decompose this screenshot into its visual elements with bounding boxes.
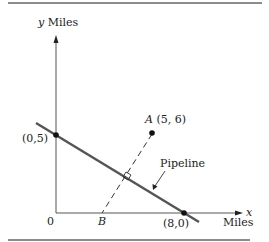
perpendicular-dashed-line bbox=[102, 134, 152, 213]
y-axis-var: y bbox=[37, 16, 45, 29]
pipeline-label: Pipeline bbox=[160, 157, 205, 170]
y-axis-unit: Miles bbox=[48, 16, 79, 29]
pipeline-line bbox=[36, 123, 199, 222]
point-a-name: A bbox=[144, 113, 153, 126]
x-axis-unit: Miles bbox=[223, 216, 254, 229]
y-axis-arrow-icon bbox=[54, 35, 59, 43]
point-a bbox=[149, 130, 155, 136]
pipeline-diagram: y Miles x Miles 0 (0,5) (8,0) A (5, 6) B… bbox=[0, 0, 269, 242]
pipeline-leader-line bbox=[155, 171, 165, 186]
point-a-coords: (5, 6) bbox=[156, 113, 186, 126]
x-axis-arrow-icon bbox=[235, 211, 243, 216]
point-b-label: B bbox=[97, 215, 106, 228]
svg-text:A (5, 6): A (5, 6) bbox=[144, 113, 186, 126]
svg-text:y Miles: y Miles bbox=[37, 16, 79, 29]
point-y-intercept bbox=[53, 132, 59, 138]
x-intercept-label: (8,0) bbox=[163, 217, 189, 230]
origin-label: 0 bbox=[47, 215, 54, 228]
point-x-intercept bbox=[181, 210, 187, 216]
pipeline-leader-arrow-icon bbox=[153, 184, 158, 190]
y-intercept-label: (0,5) bbox=[22, 132, 48, 145]
